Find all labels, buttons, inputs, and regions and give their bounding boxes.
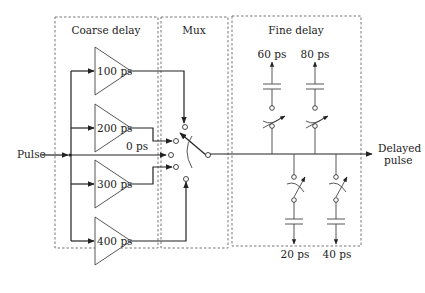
svg-text:60 ps: 60 ps	[258, 48, 287, 60]
fine-delay-label: Fine delay	[268, 24, 324, 36]
buffer-300ps: 300 ps	[71, 160, 172, 208]
fine-cap-20ps: 20 ps	[281, 154, 310, 260]
mux-label: Mux	[182, 24, 206, 36]
pulse-output-label: pulse	[384, 154, 412, 166]
svg-text:40 ps: 40 ps	[323, 248, 352, 260]
buffer-200ps: 200 ps	[71, 104, 172, 152]
mux-box	[161, 17, 228, 248]
svg-text:300 ps: 300 ps	[97, 178, 133, 190]
fine-cap-40ps: 40 ps	[323, 154, 352, 260]
svg-text:100 ps: 100 ps	[97, 65, 133, 77]
fine-delay-box	[232, 16, 361, 246]
svg-text:20 ps: 20 ps	[281, 248, 310, 260]
buffer-400ps: 400 ps	[71, 182, 186, 265]
buffer-100ps: 100 ps	[71, 47, 184, 123]
svg-text:200 ps: 200 ps	[97, 122, 133, 134]
pulse-input-label: Pulse	[17, 148, 46, 160]
mux-switch	[169, 125, 211, 182]
svg-text:400 ps: 400 ps	[97, 235, 133, 247]
delay-line-diagram: Coarse delay Mux Fine delay Pulse 100 ps…	[0, 0, 425, 293]
coarse-delay-label: Coarse delay	[71, 24, 140, 36]
delayed-label: Delayed	[378, 142, 421, 154]
bypass-0ps: 0 ps	[71, 140, 166, 155]
svg-text:80 ps: 80 ps	[301, 48, 330, 60]
svg-text:0 ps: 0 ps	[126, 140, 148, 152]
fine-cap-60ps: 60 ps	[258, 48, 287, 154]
fine-cap-80ps: 80 ps	[301, 48, 330, 154]
